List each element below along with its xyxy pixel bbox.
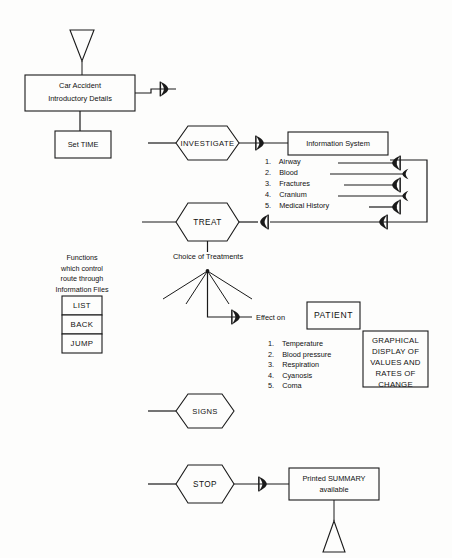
stop-to-summary-connector	[234, 477, 289, 492]
intro-box-line1: Car Accident	[59, 81, 101, 90]
investigation-item-label: Fractures	[279, 179, 310, 188]
patient-sign-number: 2.	[268, 350, 274, 359]
investigation-item-number: 3.	[265, 179, 271, 188]
patient-sign-row: 4. Cyanosis	[268, 371, 368, 382]
investigation-item-row: 5. Medical History	[265, 200, 395, 211]
patient-sign-label: Coma	[282, 381, 301, 390]
choice-of-treatments-label: Choice of Treatments	[170, 252, 246, 261]
function-button-jump-label: JUMP	[71, 339, 94, 348]
effect-on-label: Effect on	[256, 313, 285, 322]
patient-sign-number: 5.	[268, 381, 274, 390]
investigation-item-label: Cranium	[279, 190, 307, 199]
patient-box[interactable]: PATIENT	[307, 302, 360, 329]
investigation-item-row: 3. Fractures	[265, 178, 395, 189]
graphical-display-line-4: CHANGE	[378, 380, 413, 389]
graphical-display-line-3: RATES OF	[375, 369, 415, 378]
patient-sign-number: 4.	[268, 371, 274, 380]
graphical-display-line-2: VALUES AND	[370, 358, 421, 367]
intro-right-connector	[135, 82, 176, 97]
set-time-box[interactable]: Set TIME	[55, 131, 111, 158]
graphical-display-line-1: DISPLAY OF	[372, 347, 419, 356]
investigation-item-row: 2. Blood	[265, 167, 395, 178]
function-buttons-stack: LIST BACK JUMP	[62, 296, 102, 353]
printed-summary-line1: Printed SUMMARY	[302, 474, 365, 483]
investigation-item-number: 1.	[265, 157, 271, 166]
patient-sign-label: Cyanosis	[282, 371, 312, 380]
function-button-list-label: LIST	[73, 301, 91, 310]
stop-label: STOP	[193, 480, 217, 489]
graphical-display-line-0: GRAPHICAL	[372, 336, 419, 345]
patient-sign-label: Blood pressure	[282, 350, 331, 359]
investigation-item-number: 2.	[265, 168, 271, 177]
functions-note-line-2: route through	[42, 274, 122, 285]
signs-label: SIGNS	[192, 407, 218, 416]
investigation-items-list: 1. Airway 2. Blood 3. Fractures 4. Crani…	[265, 156, 395, 211]
function-button-back-label: BACK	[71, 320, 94, 329]
investigation-item-row: 1. Airway	[265, 156, 395, 167]
treatment-fan-connector	[163, 269, 252, 324]
flowchart-page: Car Accident Introductory Details Set TI…	[0, 0, 452, 558]
stop-node[interactable]: STOP	[148, 465, 234, 503]
end-terminator-icon	[323, 500, 345, 552]
intro-box[interactable]: Car Accident Introductory Details	[25, 75, 135, 111]
patient-sign-label: Temperature	[282, 339, 323, 348]
patient-label: PATIENT	[314, 310, 353, 320]
investigate-to-infosys-connector	[239, 136, 288, 151]
investigation-item-number: 4.	[265, 190, 271, 199]
investigate-label: INVESTIGATE	[180, 139, 234, 148]
functions-note-line-3: Information Files	[42, 285, 122, 296]
patient-sign-row: 5. Coma	[268, 381, 368, 392]
start-terminator-icon	[70, 30, 94, 75]
functions-note: Functions which control route through In…	[42, 253, 122, 295]
investigation-item-label: Blood	[279, 168, 298, 177]
intro-box-line2: Introductory Details	[48, 94, 112, 103]
patient-sign-row: 1. Temperature	[268, 339, 368, 350]
information-system-label: Information System	[306, 139, 370, 148]
patient-sign-number: 1.	[268, 339, 274, 348]
graphical-display-box[interactable]: GRAPHICAL DISPLAY OF VALUES AND RATES OF…	[363, 331, 428, 389]
patient-sign-label: Respiration	[282, 360, 319, 369]
patient-signs-list: 1. Temperature 2. Blood pressure 3. Resp…	[268, 339, 368, 392]
investigation-item-row: 4. Cranium	[265, 189, 395, 200]
patient-sign-row: 2. Blood pressure	[268, 350, 368, 361]
functions-note-line-1: which control	[42, 264, 122, 275]
investigation-item-number: 5.	[265, 201, 271, 210]
patient-sign-row: 3. Respiration	[268, 360, 368, 371]
investigate-node[interactable]: INVESTIGATE	[148, 126, 239, 160]
printed-summary-box[interactable]: Printed SUMMARY available	[289, 468, 379, 500]
treat-label: TREAT	[193, 218, 222, 227]
investigation-item-label: Medical History	[279, 201, 329, 210]
treat-node[interactable]: TREAT	[142, 203, 258, 241]
functions-note-line-0: Functions	[42, 253, 122, 264]
information-system-box[interactable]: Information System	[288, 132, 388, 155]
investigation-item-label: Airway	[279, 157, 301, 166]
signs-node[interactable]: SIGNS	[148, 394, 234, 428]
patient-sign-number: 3.	[268, 360, 274, 369]
set-time-label: Set TIME	[68, 140, 99, 149]
printed-summary-line2: available	[319, 485, 348, 494]
